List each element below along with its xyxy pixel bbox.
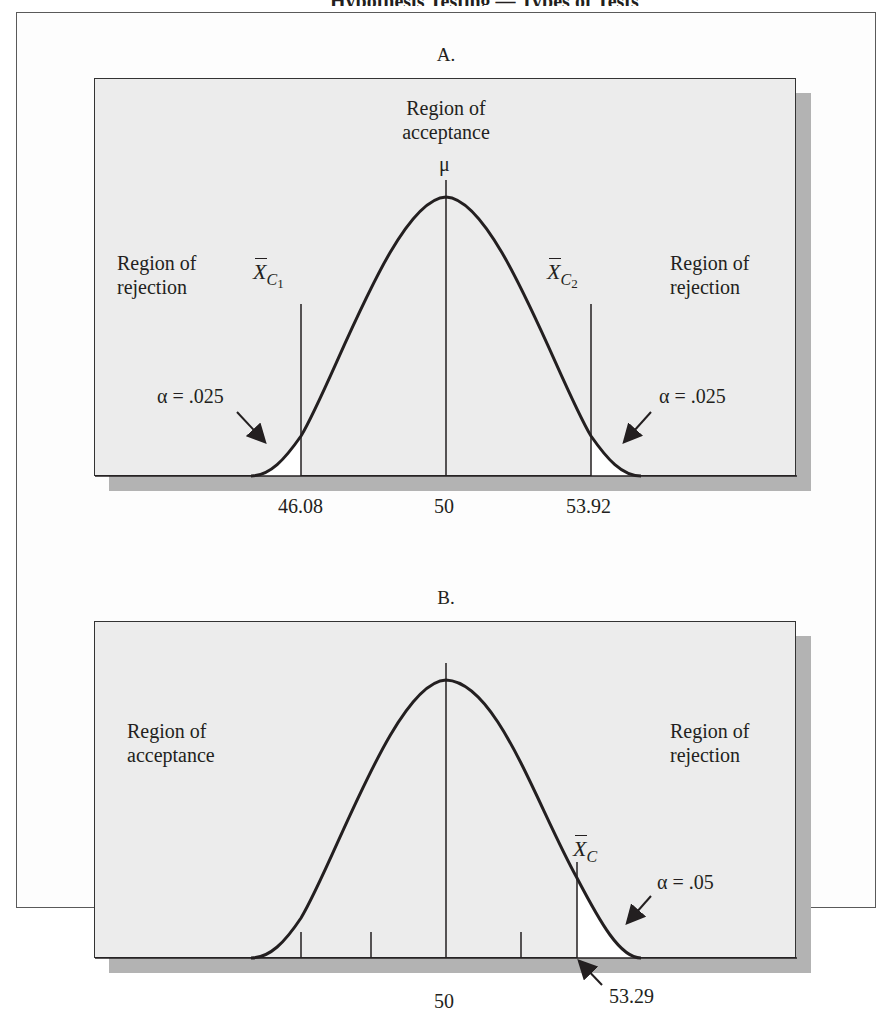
xc1-label: XC1 [253, 259, 284, 292]
acceptance-label: Region of acceptance [127, 719, 215, 767]
acceptance-label: Region of acceptance [395, 96, 497, 144]
overline [575, 835, 587, 836]
overline [255, 258, 267, 259]
label-line: Region of [395, 96, 497, 120]
sub-subscript: 1 [277, 276, 284, 291]
xc2-label: XC2 [547, 259, 578, 292]
left-rejection-label: Region of rejection [117, 251, 196, 299]
tick-label-53-29: 53.29 [609, 985, 654, 1008]
overline [549, 258, 561, 259]
subscript: C [266, 271, 277, 288]
alpha-label: α = .05 [657, 870, 714, 894]
label-line: rejection [670, 275, 749, 299]
tick-label-53-92: 53.92 [566, 495, 611, 518]
subscript: C [560, 271, 571, 288]
heading-text: Hypothesis Testing — Types of Tests [330, 0, 639, 6]
label-line: Region of [670, 719, 749, 743]
symbol: X [253, 259, 266, 284]
right-rejection-area [591, 436, 641, 476]
symbol: X [547, 259, 560, 284]
tick-label-46-08: 46.08 [278, 495, 323, 518]
rejection-label: Region of rejection [670, 719, 749, 767]
right-rejection-label: Region of rejection [670, 251, 749, 299]
alpha-left-arrow [237, 412, 264, 441]
panel-a-two-tailed: Region of acceptance μ Region of rejecti… [94, 78, 796, 476]
tick-label-50-b: 50 [434, 990, 454, 1013]
label-line: rejection [670, 743, 749, 767]
label-line: Region of [127, 719, 215, 743]
label-line: rejection [117, 275, 196, 299]
panel-b-one-tailed: Region of acceptance Region of rejection… [94, 621, 796, 958]
alpha-right-label: α = .025 [659, 384, 726, 408]
label-line: acceptance [395, 120, 497, 144]
subscript: C [586, 848, 597, 865]
label-line: Region of [117, 251, 196, 275]
alpha-right-arrow [625, 412, 651, 441]
xc-label: XC [573, 836, 597, 866]
cut-off-heading: Hypothesis Testing — Types of Tests [0, 0, 887, 6]
symbol: X [573, 836, 586, 861]
mu-label: μ [439, 152, 450, 176]
panel-b-title: B. [426, 587, 466, 609]
left-rejection-area [251, 436, 301, 476]
panel-a-title: A. [426, 44, 466, 66]
label-line: Region of [670, 251, 749, 275]
alpha-left-label: α = .025 [157, 384, 224, 408]
panel-b-curve-plot [95, 622, 797, 959]
critical-value-arrow [580, 962, 602, 985]
tick-label-50-a: 50 [434, 495, 454, 518]
alpha-arrow [628, 896, 651, 922]
label-line: acceptance [127, 743, 215, 767]
sub-subscript: 2 [571, 276, 578, 291]
